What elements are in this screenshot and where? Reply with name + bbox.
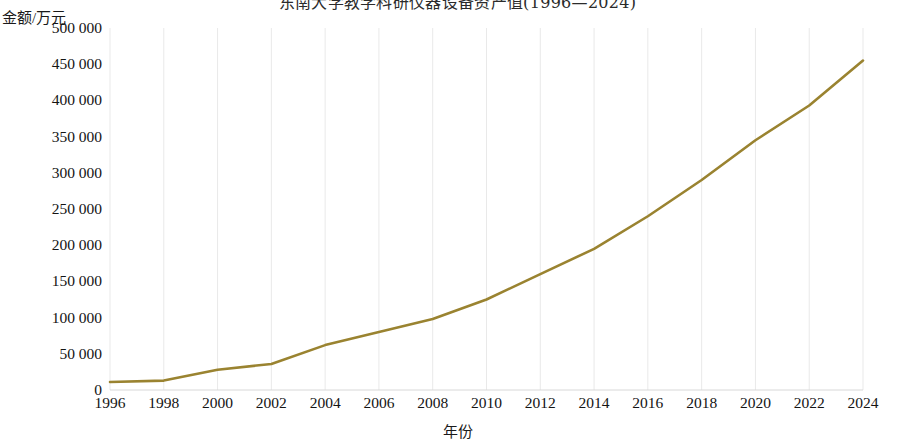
x-axis-tick-label: 2010 (471, 394, 502, 413)
x-axis-tick-label: 2024 (848, 394, 879, 413)
y-axis-tick-label: 0 (0, 382, 102, 398)
y-axis-tick-label: 50 000 (0, 346, 102, 362)
x-axis-tick-label: 2008 (417, 394, 448, 413)
chart-title: 东南大学教学科研仪器设备资产值(1996—2024) (0, 0, 915, 13)
x-axis-title: 年份 (0, 420, 915, 441)
x-axis-tick-label: 1998 (148, 394, 179, 413)
x-axis-tick-label: 2000 (202, 394, 233, 413)
x-axis-tick-label: 2004 (310, 394, 341, 413)
x-axis-tick-label: 2016 (632, 394, 663, 413)
x-axis-tick-label: 2020 (740, 394, 771, 413)
y-axis-tick-labels: 050 000100 000150 000200 000250 000300 0… (0, 28, 102, 390)
plot-svg (110, 28, 863, 390)
y-axis-tick-label: 500 000 (0, 20, 102, 36)
y-axis-tick-label: 100 000 (0, 310, 102, 326)
y-axis-tick-label: 300 000 (0, 165, 102, 181)
x-axis-tick-label: 2018 (686, 394, 717, 413)
x-axis-tick-label: 2002 (256, 394, 287, 413)
x-axis-tick-label: 1996 (95, 394, 126, 413)
x-axis-tick-label: 2012 (525, 394, 556, 413)
y-axis-tick-label: 350 000 (0, 129, 102, 145)
line-chart: 东南大学教学科研仪器设备资产值(1996—2024) 金额/万元 050 000… (0, 0, 915, 446)
x-axis-tick-label: 2014 (579, 394, 610, 413)
y-axis-tick-label: 250 000 (0, 201, 102, 217)
x-axis-tick-label: 2006 (363, 394, 394, 413)
gridlines-vertical (110, 28, 863, 390)
plot-area (110, 28, 863, 390)
y-axis-tick-label: 200 000 (0, 237, 102, 253)
y-axis-tick-label: 150 000 (0, 274, 102, 290)
x-axis-tick-labels: 1996199820002002200420062008201020122014… (110, 394, 863, 418)
y-axis-tick-label: 450 000 (0, 56, 102, 72)
y-axis-tick-label: 400 000 (0, 93, 102, 109)
x-axis-tick-label: 2022 (794, 394, 825, 413)
